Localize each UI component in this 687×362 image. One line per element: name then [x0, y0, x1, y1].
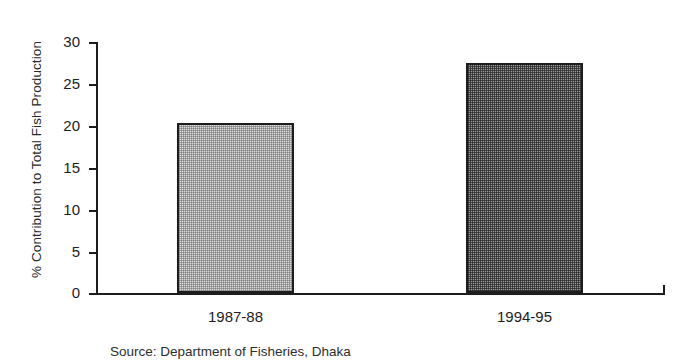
- source-caption: Source: Department of Fisheries, Dhaka: [110, 344, 351, 359]
- x-tick-label-1987-88: 1987-88: [208, 308, 263, 325]
- y-tick-30: 30: [89, 42, 97, 44]
- y-tick-15: 15: [89, 168, 97, 170]
- x-axis-line: [96, 293, 665, 295]
- y-tick-label-5: 5: [72, 243, 80, 260]
- x-axis-end-cap: [663, 285, 665, 295]
- y-tick-label-20: 20: [63, 117, 80, 134]
- x-tick-label-1994-95: 1994-95: [497, 308, 552, 325]
- y-tick-10: 10: [89, 210, 97, 212]
- y-tick-25: 25: [89, 84, 97, 86]
- y-tick-label-25: 25: [63, 75, 80, 92]
- plot-area: 30 25 20 15 10 5 0 1987-88 1994-95: [96, 42, 665, 294]
- y-tick-0: 0: [89, 293, 97, 295]
- y-tick-label-0: 0: [72, 284, 80, 301]
- bar-chart-figure: % Contribution to Total Fish Production …: [0, 0, 687, 362]
- y-tick-label-15: 15: [63, 159, 80, 176]
- y-tick-20: 20: [89, 126, 97, 128]
- y-tick-5: 5: [89, 252, 97, 254]
- y-tick-label-10: 10: [63, 201, 80, 218]
- bar-1987-88: [177, 123, 294, 293]
- y-axis-title: % Contribution to Total Fish Production: [29, 20, 44, 300]
- y-tick-label-30: 30: [63, 33, 80, 50]
- bar-1994-95: [466, 63, 583, 293]
